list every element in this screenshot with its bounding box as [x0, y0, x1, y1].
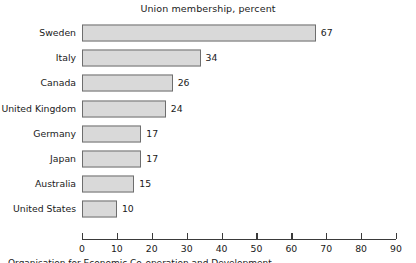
bar [82, 151, 141, 168]
bar [82, 176, 134, 193]
chart-footnote: Organisation for Economic Co-operation a… [8, 258, 272, 263]
bar-row: Canada26 [0, 71, 416, 95]
bar [82, 100, 166, 117]
category-label: United Kingdom [0, 104, 76, 113]
x-axis-tick-label: 30 [181, 244, 193, 253]
bar-value-label: 24 [171, 104, 183, 113]
bar-value-label: 34 [206, 54, 218, 63]
category-label: Germany [0, 129, 76, 138]
x-axis-tick-label: 20 [146, 244, 158, 253]
category-label: United States [0, 205, 76, 214]
bar-value-label: 10 [122, 205, 134, 214]
category-label: Sweden [0, 28, 76, 37]
bar-value-label: 67 [321, 28, 333, 37]
bar-row: Italy34 [0, 46, 416, 70]
bar-value-label: 26 [178, 79, 190, 88]
category-label: Australia [0, 180, 76, 189]
x-axis-tick-label: 10 [111, 244, 123, 253]
plot-area: Sweden67Italy34Canada26United Kingdom24G… [0, 0, 416, 263]
bar [82, 201, 117, 218]
category-label: Canada [0, 79, 76, 88]
x-axis-tick [396, 233, 397, 239]
bar-row: United Kingdom24 [0, 97, 416, 121]
category-label: Italy [0, 54, 76, 63]
bar [82, 125, 141, 142]
x-axis-tick-label: 90 [390, 244, 402, 253]
x-axis-tick-label: 80 [355, 244, 367, 253]
bar [82, 75, 173, 92]
bar-chart: Union membership, percent Sweden67Italy3… [0, 0, 416, 263]
category-label: Japan [0, 154, 76, 163]
bar-value-label: 15 [139, 180, 151, 189]
bar-row: Japan17 [0, 147, 416, 171]
bar-value-label: 17 [146, 129, 158, 138]
x-axis-tick-label: 50 [251, 244, 263, 253]
x-axis-tick-label: 60 [285, 244, 297, 253]
x-axis-line [82, 239, 396, 240]
x-axis-tick-label: 0 [79, 244, 85, 253]
bar [82, 25, 316, 42]
bar-row: Germany17 [0, 122, 416, 146]
bar-row: Australia15 [0, 172, 416, 196]
bar-value-label: 17 [146, 154, 158, 163]
x-axis-tick-label: 40 [216, 244, 228, 253]
x-axis-tick-label: 70 [320, 244, 332, 253]
bar [82, 50, 201, 67]
bar-row: Sweden67 [0, 21, 416, 45]
bar-row: United States10 [0, 197, 416, 221]
